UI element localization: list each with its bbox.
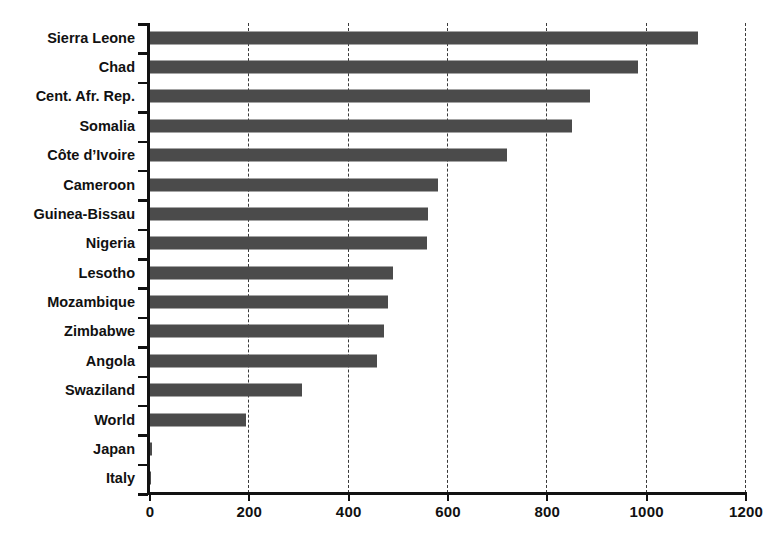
x-tick-1200 [745,492,747,501]
x-tick-200 [248,492,250,501]
bar [149,149,507,162]
y-axis-category-labels: Sierra LeoneChadCent. Afr. Rep.SomaliaCô… [0,0,135,546]
bar-chart: Sierra LeoneChadCent. Afr. Rep.SomaliaCô… [0,0,780,546]
y-tick [138,317,148,320]
x-tick-400 [348,492,350,501]
y-tick [138,111,148,114]
y-axis-label: Swaziland [0,382,135,398]
bar [149,354,377,367]
bar [149,296,388,309]
y-axis-label: Japan [0,441,135,457]
bar [149,325,384,338]
y-axis-label: Cameroon [0,177,135,193]
y-axis-label: Zimbabwe [0,323,135,339]
x-tick-label-1000: 1000 [630,503,664,520]
y-tick [138,52,148,55]
x-tick-1000 [646,492,648,501]
gridline-1200 [745,23,746,493]
y-tick [138,199,148,202]
bar [149,207,428,220]
y-axis-label: Somalia [0,118,135,134]
y-tick [138,464,148,467]
bar [149,413,246,426]
y-axis-label: Italy [0,470,135,486]
x-tick-0 [149,492,151,501]
y-axis-label: Chad [0,59,135,75]
x-tick-label-800: 800 [535,503,561,520]
x-tick-label-0: 0 [146,503,155,520]
x-tick-label-200: 200 [237,503,263,520]
y-axis-label: Cent. Afr. Rep. [0,88,135,104]
y-axis-label: Angola [0,353,135,369]
x-tick-label-600: 600 [435,503,461,520]
y-axis-label: World [0,412,135,428]
x-tick-label-1200: 1200 [729,503,763,520]
y-tick [138,287,148,290]
y-axis-label: Lesotho [0,265,135,281]
y-tick [138,170,148,173]
y-axis-label: Côte d’Ivoire [0,147,135,163]
y-axis-label: Nigeria [0,235,135,251]
y-axis-label: Sierra Leone [0,30,135,46]
y-tick [138,376,148,379]
bar [149,237,427,250]
gridline-1000 [646,23,647,493]
y-tick [138,493,148,496]
x-tick-label-400: 400 [336,503,362,520]
y-tick [138,258,148,261]
y-tick [138,229,148,232]
bar [149,31,698,44]
y-tick [138,346,148,349]
y-axis-label: Guinea-Bissau [0,206,135,222]
bar [149,384,302,397]
y-tick [138,141,148,144]
y-tick [138,23,148,26]
y-tick [138,434,148,437]
bar [149,266,393,279]
bar [149,119,572,132]
bar [149,90,590,103]
x-tick-600 [447,492,449,501]
y-tick [138,82,148,85]
y-tick [138,405,148,408]
x-tick-800 [546,492,548,501]
bar [149,61,638,74]
y-axis-label: Mozambique [0,294,135,310]
plot-area [149,23,745,493]
bar [149,178,438,191]
